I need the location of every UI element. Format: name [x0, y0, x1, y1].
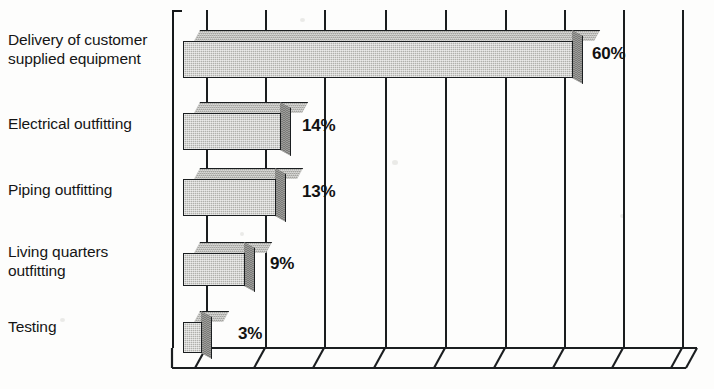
bar-front-face	[183, 41, 573, 78]
bar-living-quarters-outfitting	[183, 242, 278, 286]
bar-side-face	[280, 102, 291, 156]
x-axis-tick	[682, 10, 684, 22]
gridline	[682, 22, 684, 348]
x-axis-tick	[623, 10, 625, 22]
x-axis-tick	[324, 10, 326, 24]
scan-speck	[300, 18, 305, 22]
scan-speck	[240, 232, 244, 236]
bar-front-face	[183, 179, 276, 216]
bar-side-face	[244, 242, 255, 292]
bar-value-label-electrical-outfitting: 14%	[302, 117, 335, 134]
bar-side-face	[572, 30, 583, 84]
bar-testing	[183, 311, 233, 353]
x-axis-tick	[505, 10, 507, 24]
bar-side-face	[275, 168, 286, 222]
bar-value-label-testing: 3%	[238, 325, 262, 342]
x-axis-tick	[385, 10, 387, 24]
x-axis-tick	[445, 10, 447, 24]
y-axis-top-tick	[172, 10, 182, 12]
bar-delivery-of-customer-supplied-equipment	[183, 30, 595, 78]
bar-electrical-outfitting	[183, 102, 313, 150]
category-label-delivery-of-customer-supplied-equipment: Delivery of customer supplied equipment	[8, 31, 166, 68]
bar-chart: Delivery of customer supplied equipment …	[0, 0, 714, 389]
bar-piping-outfitting	[183, 168, 309, 216]
bar-front-face	[183, 322, 202, 353]
category-label-piping-outfitting: Piping outfitting	[8, 181, 166, 200]
bar-front-face	[183, 253, 245, 286]
category-label-living-quarters-outfitting: Living quarters outfitting	[8, 243, 166, 280]
bar-value-label-piping-outfitting: 13%	[302, 183, 335, 200]
category-label-electrical-outfitting: Electrical outfitting	[8, 115, 166, 134]
bar-top-face	[194, 30, 600, 41]
x-axis-tick	[564, 10, 566, 24]
scan-speck	[392, 160, 398, 165]
x-axis-tick	[206, 10, 208, 24]
category-label-testing: Testing	[8, 318, 166, 337]
bar-top-face	[194, 242, 272, 253]
bar-side-face	[201, 311, 212, 359]
bar-value-label-living-quarters-outfitting: 9%	[270, 255, 294, 272]
bar-front-face	[183, 113, 281, 150]
bar-value-label-delivery-of-customer-supplied-equipment: 60%	[592, 45, 625, 62]
x-axis-tick	[265, 10, 267, 24]
gridline	[623, 22, 625, 348]
bar-top-face	[194, 168, 303, 179]
y-axis-line	[172, 10, 174, 348]
